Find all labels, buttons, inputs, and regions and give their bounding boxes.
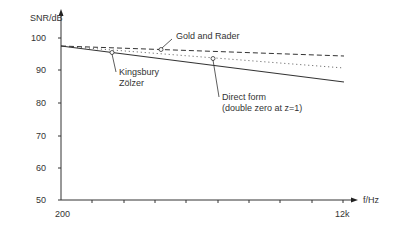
label-double-zero: (double zero at z=1) (222, 103, 302, 113)
snr-chart: SNR/dB 100 90 80 70 60 50 f/Hz 200 12k G… (0, 0, 397, 232)
x-tick-12k: 12k (335, 209, 350, 219)
x-axis-arrow-icon (351, 198, 358, 203)
leader-kingsbury (112, 54, 116, 72)
label-direct-form: Direct form (222, 92, 266, 102)
label-gold-rader: Gold and Rader (176, 31, 240, 41)
x-tick-200: 200 (55, 209, 70, 219)
y-tick-100: 100 (31, 33, 46, 43)
y-axis-label: SNR/dB (30, 13, 63, 23)
y-tick-50: 50 (36, 195, 46, 205)
series-direct-form (61, 46, 344, 68)
y-tick-60: 60 (36, 163, 46, 173)
y-tick-70: 70 (36, 131, 46, 141)
leader-gold-rader (162, 39, 172, 48)
y-tick-90: 90 (36, 65, 46, 75)
label-zolzer: Zölzer (119, 78, 144, 88)
marker-kingsbury (110, 51, 114, 55)
x-axis-label: f/Hz (363, 195, 380, 205)
label-kingsbury: Kingsbury (119, 67, 160, 77)
series-kingsbury-zolzer (61, 46, 344, 82)
marker-direct-form (211, 57, 215, 61)
y-tick-80: 80 (36, 98, 46, 108)
